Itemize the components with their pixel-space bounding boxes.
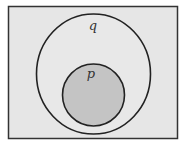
set-p-label: p [87,66,96,81]
venn-diagram: q p [0,0,185,148]
set-q-label: q [89,18,97,33]
